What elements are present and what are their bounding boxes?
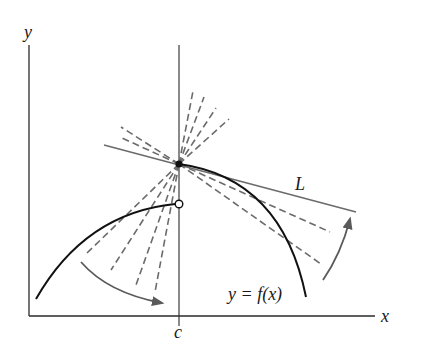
y-axis-label: y xyxy=(22,22,32,42)
arrow-right-icon xyxy=(323,219,350,280)
secants-upper-left xyxy=(121,127,179,164)
tangent-label-L: L xyxy=(294,174,305,194)
filled-point xyxy=(175,160,182,167)
function-curve xyxy=(36,164,306,299)
x-axis-label: x xyxy=(380,306,389,326)
secant-tangent-diagram: y x c L y = f(x) xyxy=(0,0,422,351)
tangent-line-L xyxy=(104,145,356,212)
curve-left-branch xyxy=(36,204,175,299)
c-label: c xyxy=(174,322,182,342)
axes xyxy=(29,45,375,326)
rotation-arrows xyxy=(81,219,350,303)
secant-lines xyxy=(87,91,330,292)
arrow-left-icon xyxy=(81,262,162,303)
curve-right-branch xyxy=(179,164,306,297)
open-point xyxy=(175,200,183,208)
secants-upper-right xyxy=(179,91,229,164)
secants-lower-right xyxy=(179,164,330,264)
function-label: y = f(x) xyxy=(226,284,282,305)
